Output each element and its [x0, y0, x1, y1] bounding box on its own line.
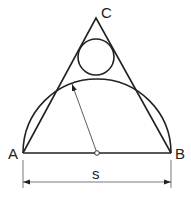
small-circle [78, 39, 114, 75]
geometry-diagram: A B C s [0, 0, 191, 197]
label-s: s [92, 165, 100, 182]
center-point [95, 151, 100, 156]
radius-arrow [72, 84, 97, 153]
label-c: C [101, 4, 112, 21]
label-a: A [8, 145, 18, 162]
semicircle [23, 79, 171, 153]
label-b: B [175, 145, 185, 162]
